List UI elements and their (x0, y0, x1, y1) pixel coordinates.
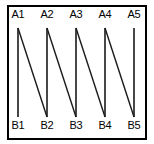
node-label-a1: A1 (11, 9, 24, 20)
node-label-b2: B2 (40, 120, 53, 131)
node-label-b3: B3 (69, 120, 82, 131)
edge-a4-b5 (105, 28, 134, 117)
node-label-b5: B5 (127, 120, 140, 131)
node-label-b4: B4 (98, 120, 111, 131)
node-label-a2: A2 (40, 9, 53, 20)
edge-a3-b4 (76, 28, 105, 117)
zigzag-diagram: A1A2A3A4A5 B1B2B3B4B5 (0, 0, 154, 144)
node-label-a4: A4 (98, 9, 111, 20)
node-label-b1: B1 (11, 120, 24, 131)
edge-a2-b3 (47, 28, 76, 117)
vertical-line-group (18, 28, 134, 117)
node-label-a5: A5 (127, 9, 140, 20)
node-label-a3: A3 (69, 9, 82, 20)
edge-a1-b2 (18, 28, 47, 117)
